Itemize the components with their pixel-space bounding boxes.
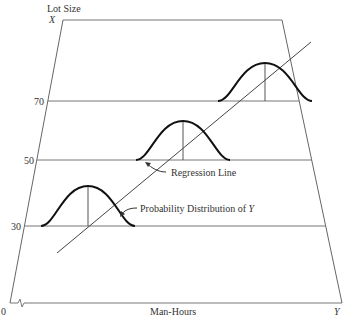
y-axis-symbol: X: [49, 14, 55, 25]
origin-label: 0: [1, 306, 6, 317]
regression-diagram: [0, 0, 343, 321]
x-axis-title: Man-Hours: [150, 306, 196, 317]
level-label-30: 30: [11, 221, 21, 232]
probability-distribution-label: Probability Distribution of Y: [140, 203, 254, 214]
y-axis-title: Lot Size: [47, 3, 81, 14]
frame-right-edge: [282, 20, 342, 303]
regression-line: [57, 42, 311, 253]
regression-line-label: Regression Line: [171, 167, 236, 178]
frame-left-edge: [10, 20, 63, 303]
probability-distribution-var: Y: [249, 203, 255, 214]
level-label-70: 70: [34, 96, 44, 107]
level-label-50: 50: [24, 155, 34, 166]
x-axis-symbol: Y: [334, 306, 340, 317]
probability-distribution-text: Probability Distribution of: [140, 203, 249, 214]
